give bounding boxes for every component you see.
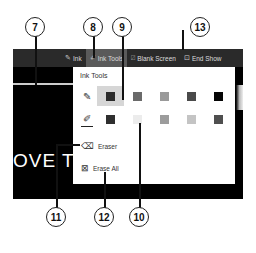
- callout-13: 13: [190, 17, 210, 37]
- ink-tools-button[interactable]: ✐ Ink Tools: [86, 49, 128, 67]
- pen-icon: ✎: [65, 54, 71, 62]
- erase-all-icon: ⊠: [81, 163, 89, 173]
- eraser-item[interactable]: ⌫ Eraser: [81, 141, 117, 151]
- callout-13-leader: [182, 30, 184, 50]
- ink-tools-label: Ink Tools: [98, 55, 124, 62]
- presenter-toolbar: ✎ Ink ✐ Ink Tools ⍁ Blank Screen ⊡ End S…: [13, 49, 243, 67]
- ink-button[interactable]: ✎ Ink: [61, 49, 86, 67]
- erase-all-label: Erase All: [93, 165, 119, 172]
- highlighter-icon[interactable]: ✐: [81, 112, 93, 127]
- pen-color-swatch[interactable]: [97, 86, 124, 106]
- pen-row: ✎: [77, 86, 232, 106]
- callout-8: 8: [83, 17, 103, 37]
- callout-12: 12: [94, 207, 114, 227]
- highlighter-color-swatch[interactable]: [151, 109, 178, 129]
- end-show-icon: ⊡: [184, 54, 190, 62]
- callout-10: 10: [129, 207, 149, 227]
- blank-screen-label: Blank Screen: [137, 55, 176, 62]
- callout-10-leader: [139, 123, 141, 209]
- highlighter-color-swatch[interactable]: [178, 109, 205, 129]
- end-show-button[interactable]: ⊡ End Show: [180, 49, 226, 67]
- erase-all-item[interactable]: ⊠ Erase All: [81, 163, 119, 173]
- pen-color-swatch[interactable]: [205, 86, 232, 106]
- ink-label: Ink: [73, 55, 82, 62]
- highlighter-row: ✐: [77, 109, 232, 129]
- pen-icon[interactable]: ✎: [77, 86, 97, 106]
- pen-color-swatch[interactable]: [124, 86, 151, 106]
- menu-title: Ink Tools: [80, 72, 108, 79]
- ink-tools-menu: Ink Tools ✎ ✐ ⌫ Eraser ⊠ Erase All: [73, 67, 235, 184]
- callout-7-leader: [35, 30, 37, 85]
- callout-9: 9: [112, 17, 132, 37]
- pen-color-swatch[interactable]: [178, 86, 205, 106]
- callout-7: 7: [25, 17, 45, 37]
- eraser-icon: ⌫: [81, 141, 94, 151]
- callout-9-leader: [122, 30, 124, 100]
- eraser-label: Eraser: [98, 143, 117, 150]
- callout-11-leader-h: [56, 144, 80, 146]
- callout-12-leader: [104, 172, 106, 209]
- callout-11-leader: [56, 144, 58, 209]
- end-show-label: End Show: [192, 55, 222, 62]
- slide-rule-line: [13, 83, 75, 85]
- pen-color-swatch[interactable]: [151, 86, 178, 106]
- blank-screen-button[interactable]: ⍁ Blank Screen: [127, 49, 180, 67]
- blank-screen-icon: ⍁: [131, 54, 135, 62]
- callout-11: 11: [46, 207, 66, 227]
- slide-edge-graphic: [236, 85, 243, 110]
- highlighter-color-swatch[interactable]: [124, 109, 151, 129]
- highlighter-color-swatch[interactable]: [205, 109, 232, 129]
- slide-text: OVE T: [13, 150, 75, 172]
- highlighter-color-swatch[interactable]: [97, 109, 124, 129]
